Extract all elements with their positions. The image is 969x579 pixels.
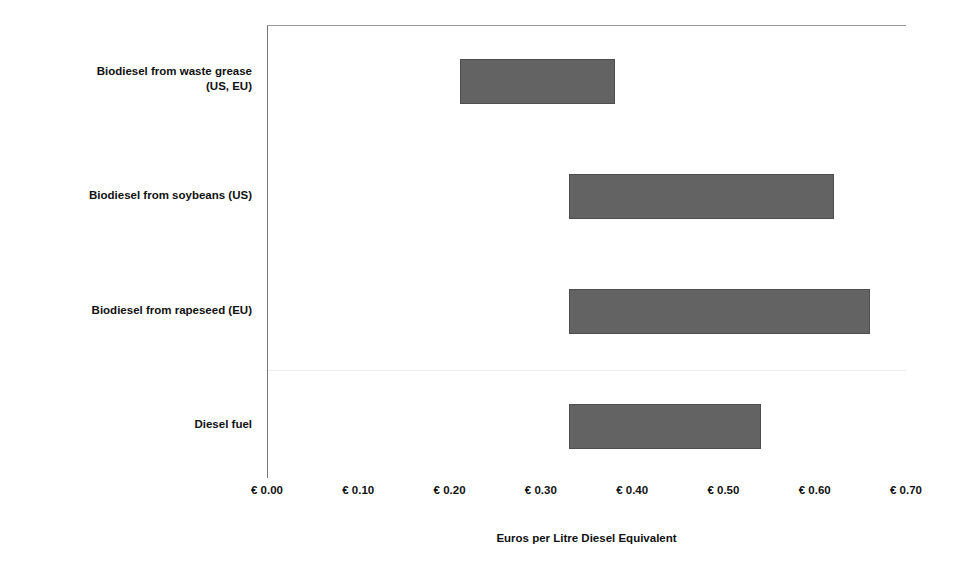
plot-hairline [268,370,907,371]
range-bar-3 [569,404,761,449]
x-tick-7: € 0.70 [861,484,951,496]
y-axis-label-2: Biodiesel from rapeseed (EU) [2,303,252,318]
x-axis-title: Euros per Litre Diesel Equivalent [267,532,906,544]
range-bar-0 [460,59,615,104]
x-tick-4: € 0.40 [587,484,677,496]
x-tick-5: € 0.50 [678,484,768,496]
bar-chart-figure: Biodiesel from waste grease (US, EU) Bio… [0,0,969,579]
x-tick-1: € 0.10 [313,484,403,496]
x-tick-0: € 0.00 [222,484,312,496]
y-axis-label-1: Biodiesel from soybeans (US) [2,188,252,203]
x-tick-2: € 0.20 [405,484,495,496]
x-tick-3: € 0.30 [496,484,586,496]
y-axis-label-0: Biodiesel from waste grease (US, EU) [2,64,252,94]
y-axis-label-3: Diesel fuel [2,417,252,432]
x-axis-tick-labels: € 0.00 € 0.10 € 0.20 € 0.30 € 0.40 € 0.5… [267,484,906,504]
range-bar-1 [569,174,834,219]
plot-area [267,25,906,478]
x-tick-6: € 0.60 [770,484,860,496]
range-bar-2 [569,289,870,334]
